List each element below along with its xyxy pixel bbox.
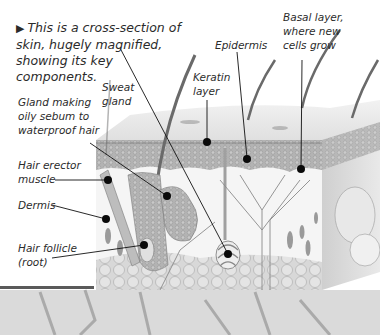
label-line: muscle	[18, 172, 81, 186]
label-line: (root)	[18, 255, 77, 269]
label-line: layer	[193, 84, 230, 98]
label-line: oily sebum to	[18, 109, 99, 123]
caption-arrow-icon: ▶	[16, 22, 24, 35]
label-line: Basal layer,	[283, 10, 344, 24]
label-line: Sweat	[102, 80, 134, 94]
label-dermis: Dermis	[18, 198, 55, 212]
label-line: Keratin	[193, 70, 230, 84]
label-sebaceous-gland: Gland making oily sebum to waterproof ha…	[18, 95, 99, 137]
ground-texture	[0, 286, 380, 335]
label-hair-follicle: Hair follicle (root)	[18, 241, 77, 269]
label-line: Epidermis	[215, 38, 267, 52]
label-epidermis: Epidermis	[215, 38, 267, 52]
label-line: Gland making	[18, 95, 99, 109]
diagram-caption: ▶This is a cross-section of skin, hugely…	[16, 20, 196, 85]
label-line: Hair follicle	[18, 241, 77, 255]
label-hair-erector-muscle: Hair erector muscle	[18, 158, 81, 186]
label-basal-layer: Basal layer, where new cells grow	[283, 10, 344, 52]
label-line: Dermis	[18, 198, 55, 212]
label-line: Hair erector	[18, 158, 81, 172]
caption-text: This is a cross-section of skin, hugely …	[16, 20, 181, 84]
label-sweat-gland: Sweat gland	[102, 80, 134, 108]
skin-diagram: ▶This is a cross-section of skin, hugely…	[0, 0, 380, 335]
label-line: waterproof hair	[18, 123, 99, 137]
label-line: where new	[283, 24, 344, 38]
label-keratin-layer: Keratin layer	[193, 70, 230, 98]
label-line: gland	[102, 94, 134, 108]
label-line: cells grow	[283, 38, 344, 52]
